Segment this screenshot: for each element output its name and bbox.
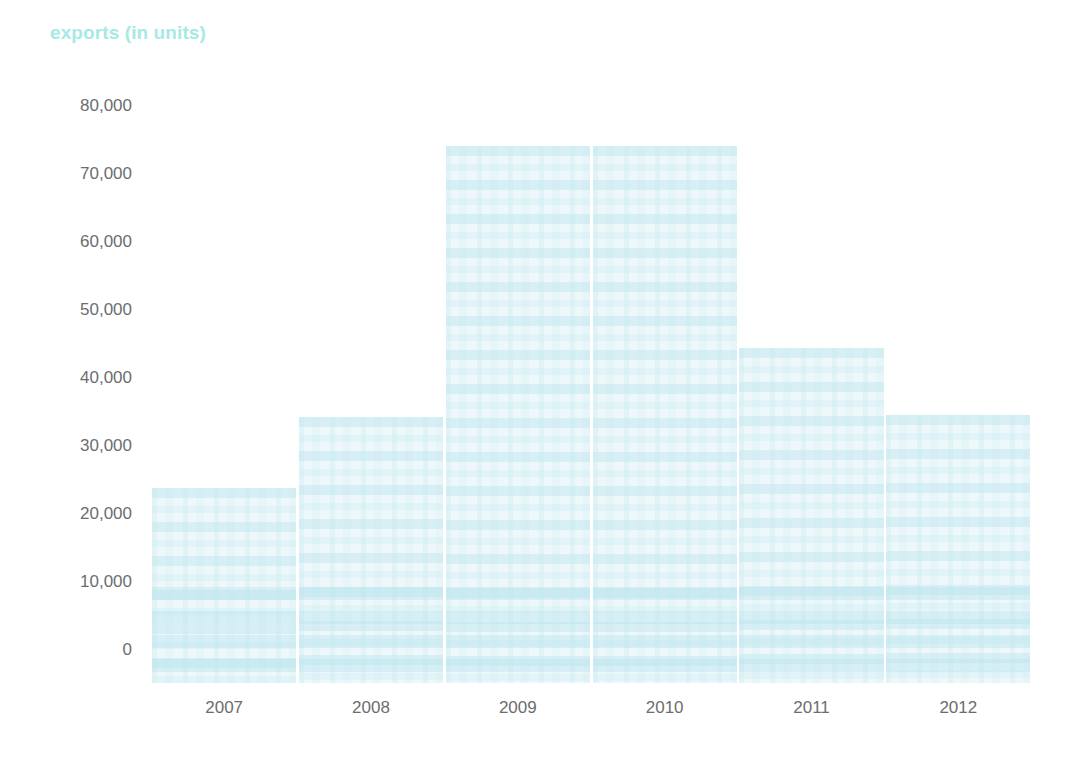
x-axis-tick-label: 2010: [646, 698, 684, 718]
y-axis-tick-label: 60,000: [12, 232, 132, 252]
bar: [886, 415, 1030, 683]
y-axis-tick-label: 80,000: [12, 96, 132, 116]
x-axis: 200720082009201020112012: [152, 698, 1033, 728]
y-axis-tick-label: 70,000: [12, 164, 132, 184]
y-axis-tick-label: 0: [12, 640, 132, 660]
bar: [299, 417, 443, 683]
bar: [446, 146, 590, 683]
y-axis-tick-label: 50,000: [12, 300, 132, 320]
x-axis-tick-label: 2008: [352, 698, 390, 718]
y-axis: 010,00020,00030,00040,00050,00060,00070,…: [0, 90, 132, 683]
chart-title: exports (in units): [50, 22, 206, 44]
y-axis-tick-label: 30,000: [12, 436, 132, 456]
y-axis-tick-label: 20,000: [12, 504, 132, 524]
x-axis-tick-label: 2012: [939, 698, 977, 718]
bar-chart: exports (in units) 010,00020,00030,00040…: [0, 0, 1089, 772]
x-axis-tick-label: 2009: [499, 698, 537, 718]
y-axis-tick-label: 10,000: [12, 572, 132, 592]
bar: [152, 488, 296, 683]
plot-area: [152, 90, 1033, 683]
bars-layer: [152, 90, 1033, 683]
x-axis-tick-label: 2011: [793, 698, 830, 718]
x-axis-tick-label: 2007: [205, 698, 243, 718]
y-axis-tick-label: 40,000: [12, 368, 132, 388]
bar: [739, 348, 883, 683]
bar: [593, 146, 737, 683]
